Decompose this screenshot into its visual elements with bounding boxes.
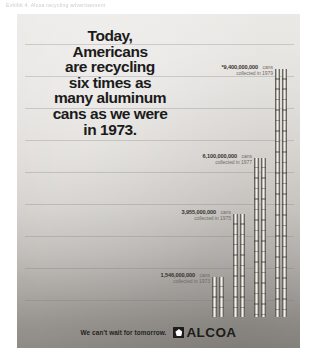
can-column (219, 277, 224, 317)
can-stack-1975 (233, 214, 245, 317)
can-column (240, 214, 245, 317)
can-column (282, 69, 287, 317)
alcoa-logo: ALCOA (173, 325, 236, 340)
brand-name: ALCOA (186, 325, 236, 340)
can-stack-1979 (275, 69, 287, 317)
can-stack-chart (17, 14, 300, 348)
alcoa-pentagon-icon (173, 327, 184, 338)
tagline: We can't wait for tomorrow. (81, 329, 167, 336)
can-column (212, 277, 217, 317)
can-stack-1973 (212, 277, 224, 317)
can-stack-1977 (254, 158, 266, 317)
page-caption: Exhibit 4. Alcoa recycling advertisement (6, 1, 206, 9)
can-column (261, 158, 266, 317)
can-column (233, 214, 238, 317)
ad-footer: We can't wait for tomorrow. ALCOA (17, 325, 300, 340)
can-column (254, 158, 259, 317)
advertisement-panel: Today,Americansare recyclingsix times as… (17, 14, 300, 348)
can-column (275, 69, 280, 317)
